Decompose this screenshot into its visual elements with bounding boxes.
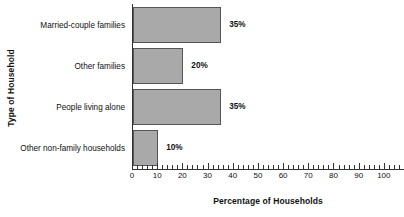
x-axis-minor-tick xyxy=(278,165,279,169)
x-axis-tick-label: 0 xyxy=(130,171,134,180)
x-axis-minor-tick xyxy=(364,165,365,169)
x-axis-minor-tick xyxy=(344,165,345,169)
x-axis-minor-tick xyxy=(213,165,214,169)
category-label: Other families xyxy=(74,46,125,87)
x-axis-minor-tick xyxy=(268,165,269,169)
category-label: Other non-family households xyxy=(20,128,125,169)
x-axis-tick-label: 40 xyxy=(228,171,237,180)
x-axis-minor-tick xyxy=(197,165,198,169)
x-axis-minor-tick xyxy=(248,165,249,169)
x-axis-major-tick xyxy=(333,163,334,169)
x-axis-major-tick xyxy=(157,163,158,169)
x-axis-minor-tick xyxy=(228,165,229,169)
x-axis-tick-label: 10 xyxy=(153,171,162,180)
x-axis-minor-tick xyxy=(147,165,148,169)
bar xyxy=(133,130,158,166)
x-axis-minor-tick xyxy=(243,165,244,169)
x-axis-minor-tick xyxy=(187,165,188,169)
x-axis-minor-tick xyxy=(167,165,168,169)
x-axis-minor-tick xyxy=(323,165,324,169)
x-axis-tick-label: 20 xyxy=(178,171,187,180)
x-axis-minor-tick xyxy=(354,165,355,169)
x-axis-line xyxy=(132,169,404,170)
x-axis-minor-tick xyxy=(339,165,340,169)
x-axis-minor-tick xyxy=(394,165,395,169)
x-axis-minor-tick xyxy=(218,165,219,169)
x-axis-minor-tick xyxy=(399,165,400,169)
x-axis-minor-tick xyxy=(389,165,390,169)
x-axis-minor-tick xyxy=(298,165,299,169)
x-axis-minor-tick xyxy=(177,165,178,169)
x-axis-minor-tick xyxy=(253,165,254,169)
x-axis-tick-label: 30 xyxy=(203,171,212,180)
x-axis-tick-label: 90 xyxy=(354,171,363,180)
x-axis-major-tick xyxy=(359,163,360,169)
category-label: People living alone xyxy=(56,87,125,128)
bar-chart: Type of Household Married-couple familie… xyxy=(0,0,404,217)
x-axis-tick-label: 70 xyxy=(304,171,313,180)
x-axis-minor-tick xyxy=(137,165,138,169)
x-axis-major-tick xyxy=(208,163,209,169)
x-axis-minor-tick xyxy=(238,165,239,169)
x-axis-minor-tick xyxy=(318,165,319,169)
x-axis-minor-tick xyxy=(374,165,375,169)
x-axis-minor-tick xyxy=(172,165,173,169)
bar-value-label: 20% xyxy=(191,48,207,84)
x-axis-major-tick xyxy=(182,163,183,169)
x-axis-minor-tick xyxy=(223,165,224,169)
x-axis-minor-tick xyxy=(328,165,329,169)
x-axis-major-tick xyxy=(308,163,309,169)
x-axis-minor-tick xyxy=(369,165,370,169)
x-axis-major-tick xyxy=(258,163,259,169)
bar-value-label: 35% xyxy=(229,7,245,43)
x-axis-major-tick xyxy=(132,163,133,169)
x-axis-minor-tick xyxy=(293,165,294,169)
x-axis-tick-label: 100 xyxy=(377,171,390,180)
x-axis-title: Percentage of Households xyxy=(132,196,404,206)
x-axis-minor-tick xyxy=(152,165,153,169)
bar-value-label: 35% xyxy=(229,89,245,125)
x-axis-tick-label: 80 xyxy=(329,171,338,180)
bar-value-label: 10% xyxy=(166,130,182,166)
x-axis-major-tick xyxy=(233,163,234,169)
bar xyxy=(133,89,221,125)
x-axis-tick-label: 60 xyxy=(279,171,288,180)
x-axis-minor-tick xyxy=(273,165,274,169)
category-label: Married-couple families xyxy=(40,5,125,46)
x-axis-minor-tick xyxy=(288,165,289,169)
x-axis-minor-tick xyxy=(192,165,193,169)
bar xyxy=(133,48,183,84)
y-axis-title: Type of Household xyxy=(0,0,22,175)
x-axis-minor-tick xyxy=(162,165,163,169)
x-axis-minor-tick xyxy=(142,165,143,169)
x-axis-minor-tick xyxy=(263,165,264,169)
x-axis-major-tick xyxy=(384,163,385,169)
x-axis-tick-label: 50 xyxy=(253,171,262,180)
y-axis-title-label: Type of Household xyxy=(6,49,16,127)
x-axis-major-tick xyxy=(283,163,284,169)
x-axis-minor-tick xyxy=(203,165,204,169)
x-axis-minor-tick xyxy=(349,165,350,169)
x-axis-minor-tick xyxy=(303,165,304,169)
x-axis-minor-tick xyxy=(379,165,380,169)
plot-area: Married-couple families35%Other families… xyxy=(132,4,404,169)
x-axis-minor-tick xyxy=(313,165,314,169)
bar xyxy=(133,7,221,43)
